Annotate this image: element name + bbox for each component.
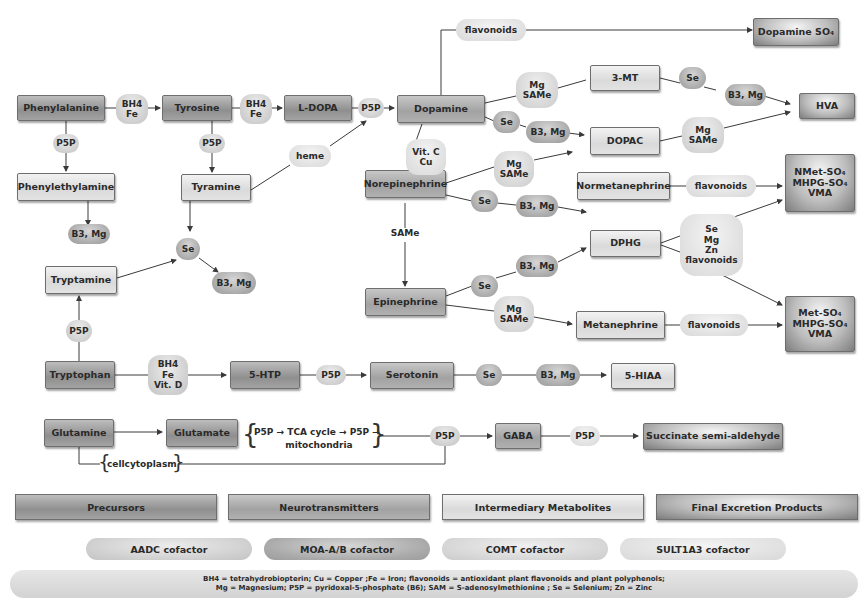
- cofactor-label: Vit. C Cu: [412, 147, 439, 168]
- node-label: Normetanephrine: [576, 181, 670, 192]
- node-epinephrine: Epinephrine: [365, 288, 446, 316]
- node-glutamate: Glutamate: [166, 419, 238, 447]
- abbreviations-line-1: BH4 = tetrahydrobiopterin; Cu = Copper ;…: [203, 575, 665, 584]
- node-label: L-DOPA: [298, 103, 337, 114]
- node-label: DPHG: [610, 238, 641, 249]
- node-phenylethylamine: Phenylethylamine: [17, 173, 115, 201]
- node-gaba: GABA: [495, 423, 541, 449]
- legend-intermediary-metabolites: Intermediary Metabolites: [442, 494, 644, 520]
- node-label: 3-MT: [612, 73, 639, 84]
- cofactor-label: B3, Mg: [216, 278, 251, 288]
- cofactor-b3-mg-ne: B3, Mg: [516, 195, 558, 217]
- cofactor-label: BH4 Fe Vit. D: [154, 359, 182, 390]
- cofactor-label: flavonoids: [695, 181, 747, 191]
- cofactor-same-ne-epi: SAMe: [390, 228, 420, 238]
- cofactor-label: flavonoids: [688, 320, 740, 330]
- cofactor-bh4-fe-vitd: BH4 Fe Vit. D: [148, 355, 188, 395]
- node-succinate-semi-aldehyde: Succinate semi-aldehyde: [643, 423, 783, 450]
- cofactor-p5p-trp: P5P: [66, 320, 92, 342]
- cofactor-p5p-htp: P5P: [316, 365, 346, 385]
- cofactor-label: B3, Mg: [728, 90, 763, 100]
- cofactor-label: heme: [296, 151, 324, 161]
- node-dopac: DOPAC: [590, 127, 660, 155]
- cofactor-label: SAMe: [391, 228, 420, 238]
- legend-final-excretion-products: Final Excretion Products: [656, 494, 858, 520]
- legend-moa-cofactor: MOA-A/B cofactor: [264, 538, 430, 560]
- cofactor-label: P5P: [321, 370, 340, 380]
- brace-close-tca: }: [370, 421, 387, 447]
- node-label: Phenylethylamine: [18, 182, 114, 193]
- legend-label: AADC cofactor: [131, 544, 208, 555]
- cofactor-label: Se: [500, 117, 513, 127]
- cofactor-label: BH4 Fe: [122, 99, 143, 120]
- node-tyramine: Tyramine: [181, 174, 251, 201]
- node-label: Metanephrine: [583, 320, 658, 331]
- cofactor-label: flavonoids: [465, 25, 517, 35]
- node-label: Dopamine: [414, 104, 468, 115]
- cofactor-label: P5P: [202, 138, 221, 148]
- cofactor-label: Mg SAMe: [500, 159, 529, 180]
- node-tyrosine: Tyrosine: [162, 95, 232, 121]
- node-label: HVA: [816, 101, 838, 112]
- cofactor-se-3mt: Se: [679, 67, 706, 89]
- cofactor-label: B3, Mg: [540, 370, 575, 380]
- cofactor-se-epi: Se: [471, 275, 498, 297]
- tca-line-2: mitochondria: [285, 440, 352, 450]
- node-label: Norepinephrine: [364, 179, 448, 190]
- node-label: Glutamine: [51, 428, 106, 439]
- cofactor-label: Se: [182, 244, 195, 254]
- legend-label: Final Excretion Products: [692, 502, 823, 513]
- mitochondria-label: mitochondria: [284, 440, 354, 450]
- node-tryptophan: Tryptophan: [45, 361, 115, 389]
- cofactor-label: Se Mg Zn flavonoids: [685, 224, 737, 265]
- cofactor-heme: heme: [289, 145, 331, 167]
- cofactor-flavonoids-dopamine: flavonoids: [456, 19, 526, 41]
- cofactor-p5p-ldopa: P5P: [358, 98, 384, 118]
- node-3-mt: 3-MT: [590, 65, 660, 91]
- cofactor-b3-mg-epi: B3, Mg: [516, 255, 558, 277]
- legend-comt-cofactor: COMT cofactor: [442, 538, 608, 560]
- cofactor-p5p-tyr: P5P: [199, 134, 225, 153]
- cofactor-p5p-gaba-in: P5P: [430, 426, 460, 446]
- node-label: Serotonin: [386, 370, 438, 381]
- node-tryptamine: Tryptamine: [45, 266, 117, 294]
- cofactor-b3-mg-amines: B3, Mg: [212, 272, 256, 294]
- cofactor-vitc-cu: Vit. C Cu: [406, 139, 446, 175]
- legend-neurotransmitters: Neurotransmitters: [228, 494, 430, 520]
- node-label: GABA: [503, 431, 533, 442]
- node-label: Tyramine: [191, 182, 240, 193]
- cofactor-se-serotonin: Se: [476, 364, 502, 386]
- cofactor-label: Mg SAMe: [689, 125, 718, 146]
- node-label: NMet-SO₄ MHPG-SO₄ VMA: [792, 167, 847, 200]
- cofactor-p5p-phe: P5P: [53, 134, 79, 153]
- cofactor-b3-mg-pea: B3, Mg: [68, 224, 110, 244]
- node-label: Phenylalanine: [23, 103, 99, 114]
- cofactor-label: BH4 Fe: [246, 99, 267, 120]
- node-hva: HVA: [799, 93, 855, 119]
- cofactor-flavonoids-nmn: flavonoids: [686, 175, 756, 197]
- cofactor-label: Se: [478, 196, 491, 206]
- cofactor-label: P5P: [69, 326, 88, 336]
- brace-close-cytoplasm: }: [172, 452, 185, 472]
- node-label: Epinephrine: [373, 297, 437, 308]
- legend-label: Neurotransmitters: [279, 502, 378, 513]
- cofactor-p5p-gaba-out: P5P: [570, 426, 600, 446]
- cofactor-flavonoids-mn: flavonoids: [680, 314, 748, 336]
- node-serotonin: Serotonin: [370, 362, 454, 389]
- node-normetanephrine: Normetanephrine: [577, 172, 670, 200]
- cofactor-label: P5P: [361, 103, 380, 113]
- node-5-hiaa: 5-HIAA: [611, 363, 675, 389]
- cofactor-se-ne: Se: [471, 190, 498, 212]
- cofactor-se-amines: Se: [176, 238, 200, 260]
- cofactor-label: Mg SAMe: [523, 80, 552, 101]
- node-label: 5-HTP: [249, 370, 281, 381]
- cofactor-label: Se: [483, 370, 496, 380]
- node-dphg: DPHG: [590, 230, 661, 257]
- cytoplasm-text: cellcytoplasm: [107, 459, 177, 469]
- node-dopamine: Dopamine: [397, 95, 485, 123]
- cofactor-label: B3, Mg: [530, 127, 565, 137]
- cofactor-label: P5P: [575, 431, 594, 441]
- node-label: Tryptophan: [50, 370, 111, 381]
- node-label: Tryptamine: [51, 275, 111, 286]
- cofactor-mg-same-dopamine: Mg SAMe: [516, 72, 558, 108]
